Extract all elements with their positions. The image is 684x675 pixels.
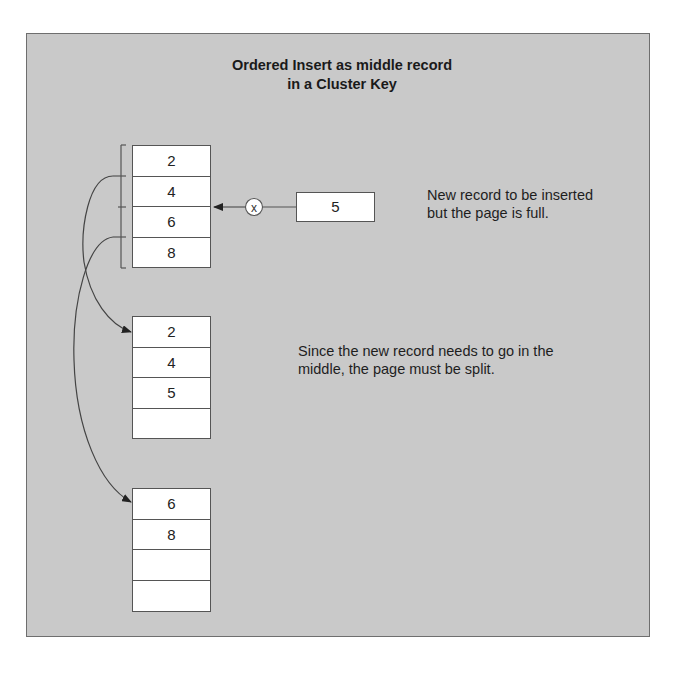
split-arrow-second-half (74, 237, 131, 502)
blocked-marker-text: x (251, 201, 257, 215)
split-page-1: 2 4 5 (132, 316, 211, 439)
record-cell: 6 (133, 207, 210, 238)
record-cell (133, 409, 210, 440)
split-arrow-first-half (83, 176, 131, 332)
split-note-line-1: Since the new record needs to go in the (298, 342, 554, 360)
insert-note-line-2: but the page is full. (427, 204, 549, 222)
record-cell: 8 (133, 520, 210, 551)
record-cell: 8 (133, 238, 210, 269)
connectors: x (0, 0, 684, 675)
split-page-2: 6 8 (132, 488, 211, 612)
insert-note-line-1: New record to be inserted (427, 186, 593, 204)
record-cell (133, 550, 210, 581)
record-cell: 6 (133, 489, 210, 520)
record-cell: 4 (133, 177, 210, 208)
record-cell: 2 (133, 146, 210, 177)
new-record-box: 5 (296, 192, 375, 222)
page-bracket (113, 145, 126, 268)
record-cell: 5 (133, 378, 210, 409)
original-page: 2 4 6 8 (132, 145, 211, 268)
record-cell (133, 581, 210, 612)
record-cell: 4 (133, 348, 210, 379)
record-cell: 2 (133, 317, 210, 348)
split-note-line-2: middle, the page must be split. (298, 360, 495, 378)
